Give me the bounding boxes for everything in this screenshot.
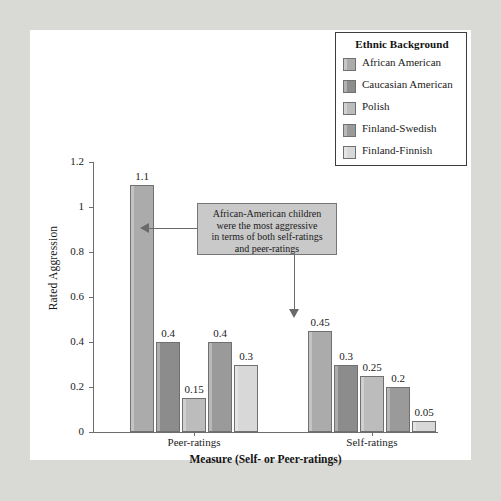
- legend-item-label: Finland-Finnish: [362, 144, 432, 156]
- bar-value-label: 0.2: [378, 372, 418, 384]
- annotation-arrow-left-shaft: [147, 228, 197, 229]
- legend-item-label: Caucasian American: [362, 78, 453, 90]
- legend-item-label: Finland-Swedish: [362, 122, 437, 134]
- legend-item-label: African American: [362, 56, 441, 68]
- y-axis-label: Rated Aggression: [47, 173, 59, 363]
- legend-item: African American: [343, 55, 467, 75]
- legend-swatch: [343, 146, 356, 159]
- legend-swatch: [343, 58, 356, 71]
- legend-swatch: [343, 102, 356, 115]
- bar-value-label: 0.45: [300, 316, 340, 328]
- bar-value-label: 0.4: [200, 327, 240, 339]
- bar-highlight: [387, 388, 390, 431]
- x-axis-group-label: Self-ratings: [278, 436, 466, 448]
- annotation-callout: African-American children were the most …: [197, 203, 337, 255]
- bar-highlight: [361, 377, 364, 431]
- bar-highlight: [335, 366, 338, 432]
- y-axis-tick-mark: [89, 207, 94, 208]
- y-axis-tick-mark: [89, 387, 94, 388]
- bar-chart-plot-area: 00.20.40.60.811.2 Rated Aggression 1.10.…: [30, 30, 471, 460]
- legend-swatch-highlight: [344, 147, 347, 158]
- annotation-arrow-down-icon: [289, 309, 299, 318]
- y-axis-tick-label: 1.2: [50, 155, 84, 167]
- bar: [182, 398, 206, 432]
- legend-swatch: [343, 124, 356, 137]
- bar-value-label: 0.4: [148, 327, 188, 339]
- legend-swatch-highlight: [344, 103, 347, 114]
- bar: [334, 365, 358, 433]
- annotation-arrow-down-shaft: [294, 255, 295, 311]
- legend-box: Ethnic Background African AmericanCaucas…: [335, 32, 467, 166]
- x-axis-tick-mark: [372, 432, 373, 436]
- bar: [130, 185, 154, 433]
- x-axis-line: [93, 432, 438, 433]
- bar-highlight: [235, 366, 238, 432]
- figure-panel: 00.20.40.60.811.2 Rated Aggression 1.10.…: [30, 30, 471, 460]
- bar-value-label: 0.3: [326, 350, 366, 362]
- legend-swatch: [343, 80, 356, 93]
- x-axis-group-label: Peer-ratings: [100, 436, 288, 448]
- y-axis-tick-label: 0: [50, 425, 84, 437]
- bar-highlight: [413, 422, 416, 431]
- legend-item: Finland-Swedish: [343, 121, 467, 141]
- y-axis-tick-mark: [89, 432, 94, 433]
- y-axis-tick-mark: [89, 252, 94, 253]
- figure-page: 00.20.40.60.811.2 Rated Aggression 1.10.…: [0, 0, 501, 501]
- legend-item: Caucasian American: [343, 77, 467, 97]
- y-axis-tick-mark: [89, 297, 94, 298]
- legend-item-label: Polish: [362, 100, 390, 112]
- y-axis-tick-label: 0.2: [50, 380, 84, 392]
- bar-value-label: 1.1: [122, 170, 162, 182]
- bar: [360, 376, 384, 432]
- bar: [412, 421, 436, 432]
- bar-highlight: [157, 343, 160, 431]
- bar-highlight: [309, 332, 312, 431]
- annotation-arrow-left-icon: [140, 223, 149, 233]
- bar-highlight: [183, 399, 186, 431]
- bar: [308, 331, 332, 432]
- legend-item: Finland-Finnish: [343, 143, 467, 163]
- y-axis-tick-mark: [89, 162, 94, 163]
- bar-value-label: 0.3: [226, 350, 266, 362]
- y-axis-tick-mark: [89, 342, 94, 343]
- bar-value-label: 0.05: [404, 406, 444, 418]
- legend-swatch-highlight: [344, 81, 347, 92]
- legend-swatch-highlight: [344, 59, 347, 70]
- bar-value-label: 0.25: [352, 361, 392, 373]
- legend-item: Polish: [343, 99, 467, 119]
- legend-title: Ethnic Background: [336, 38, 468, 50]
- legend-swatch-highlight: [344, 125, 347, 136]
- bar-highlight: [209, 343, 212, 431]
- bar-highlight: [131, 186, 134, 432]
- annotation-callout-text: African-American children were the most …: [203, 208, 331, 254]
- bar: [234, 365, 258, 433]
- x-axis-label: Measure (Self- or Peer-ratings): [93, 453, 438, 465]
- x-axis-tick-mark: [194, 432, 195, 436]
